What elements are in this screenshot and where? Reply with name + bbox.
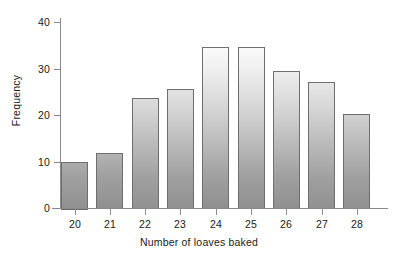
y-axis-tick xyxy=(54,115,60,116)
x-axis-tick-label: 26 xyxy=(271,219,301,230)
x-axis-title: Number of loaves baked xyxy=(0,237,398,248)
x-axis-tick-label: 20 xyxy=(60,219,90,230)
bar xyxy=(202,47,229,209)
bar xyxy=(238,47,265,209)
x-axis-tick xyxy=(286,209,287,215)
bar xyxy=(167,89,194,209)
bar xyxy=(132,98,159,209)
y-axis-tick-label: 40 xyxy=(24,17,50,28)
bar xyxy=(273,71,300,209)
x-axis-tick xyxy=(251,209,252,215)
bar xyxy=(61,162,88,210)
x-axis-line xyxy=(52,208,388,209)
x-axis-tick-label: 21 xyxy=(95,219,125,230)
x-axis-tick xyxy=(145,209,146,215)
x-axis-tick xyxy=(216,209,217,215)
x-axis-tick xyxy=(110,209,111,215)
x-axis-tick xyxy=(180,209,181,215)
y-axis-title: Frequency xyxy=(11,61,22,141)
x-axis-tick-label: 23 xyxy=(165,219,195,230)
bar xyxy=(308,82,335,209)
x-axis-tick xyxy=(322,209,323,215)
y-axis-tick-label: 0 xyxy=(24,203,50,214)
y-axis-line xyxy=(60,18,61,209)
x-axis-tick-label: 27 xyxy=(307,219,337,230)
y-axis-tick-label: 20 xyxy=(24,110,50,121)
y-axis-tick-label: 10 xyxy=(24,157,50,168)
y-axis-tick xyxy=(54,69,60,70)
x-axis-tick-label: 25 xyxy=(236,219,266,230)
y-axis-tick-label: 30 xyxy=(24,64,50,75)
y-axis-tick xyxy=(54,22,60,23)
bar-chart: 010203040 Frequency 202122232425262728 N… xyxy=(0,0,398,259)
x-axis-tick-label: 28 xyxy=(342,219,372,230)
x-axis-tick xyxy=(357,209,358,215)
y-axis-tick xyxy=(54,162,60,163)
bar xyxy=(96,153,123,209)
x-axis-tick-label: 24 xyxy=(201,219,231,230)
x-axis-tick xyxy=(75,209,76,215)
bar xyxy=(343,114,370,209)
x-axis-tick-label: 22 xyxy=(130,219,160,230)
